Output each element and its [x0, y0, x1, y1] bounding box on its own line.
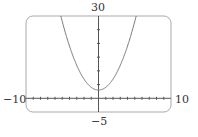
y-min-label: −5	[91, 116, 107, 127]
x-max-label: 10	[175, 94, 189, 105]
x-min-label: −10	[3, 94, 26, 105]
axes	[26, 16, 171, 112]
y-max-label: 30	[91, 2, 105, 13]
